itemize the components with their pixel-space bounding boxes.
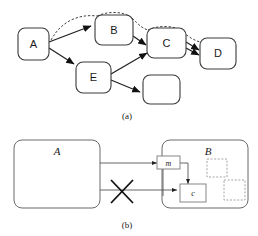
node-m-label: m	[166, 159, 172, 168]
node-a[interactable]: A	[18, 28, 49, 60]
edge-b-c	[133, 36, 146, 45]
node-c-inner-label: c	[191, 189, 195, 198]
blocked-cross-icon	[111, 180, 133, 203]
node-e[interactable]: E	[76, 62, 111, 93]
container-a-label: A	[53, 145, 61, 157]
edge-dashed-b-c	[132, 18, 148, 30]
node-m[interactable]: m	[157, 156, 180, 169]
container-b-label: B	[205, 145, 212, 157]
panel-b: A B m c	[14, 140, 248, 230]
node-c[interactable]: C	[147, 28, 186, 58]
figure-root: A B C D E (a)	[0, 0, 258, 236]
edge-e-blank	[111, 80, 140, 92]
edge-a-e	[49, 48, 74, 64]
slot-placeholder-1[interactable]	[207, 159, 227, 177]
node-d[interactable]: D	[200, 38, 236, 69]
node-b-label: B	[110, 24, 117, 36]
container-a[interactable]: A	[14, 140, 100, 208]
node-e-label: E	[90, 71, 97, 83]
node-blank-shape[interactable]	[143, 75, 180, 104]
node-c-inner[interactable]: c	[180, 184, 206, 202]
edge-e-c	[111, 53, 147, 74]
edge-dashed-a-b	[51, 16, 97, 40]
figure-canvas: A B C D E (a)	[0, 0, 258, 236]
node-a-label: A	[30, 38, 38, 50]
caption-b: (b)	[122, 220, 133, 230]
edge-a-b	[49, 26, 91, 42]
node-d-label: D	[214, 47, 222, 59]
node-blank[interactable]	[143, 75, 180, 104]
caption-a: (a)	[122, 111, 132, 121]
node-c-label: C	[163, 37, 171, 49]
slot-placeholder-2[interactable]	[224, 180, 245, 200]
node-b[interactable]: B	[95, 15, 133, 45]
panel-a: A B C D E (a)	[18, 12, 236, 121]
